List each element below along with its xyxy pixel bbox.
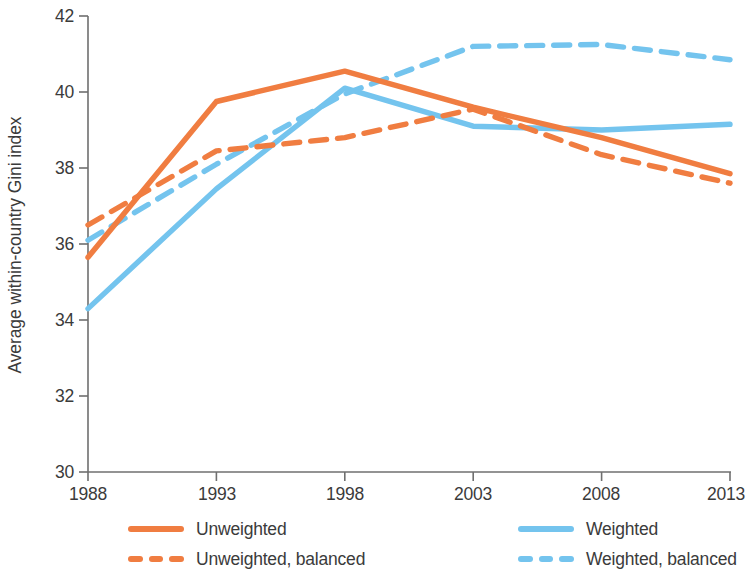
- chart-legend: Unweighted Weighted Unweighted, balanced…: [128, 514, 728, 574]
- legend-item-unweighted[interactable]: Unweighted: [128, 519, 518, 540]
- legend-label-unweighted: Unweighted: [196, 519, 286, 540]
- chart-container: Average within-country Gini index 42 40 …: [0, 0, 750, 576]
- plot-area: [0, 0, 750, 576]
- axis-lines: [88, 16, 731, 472]
- legend-label-unweighted-balanced: Unweighted, balanced: [196, 549, 365, 570]
- series-line-weighted: [88, 88, 730, 308]
- legend-item-weighted[interactable]: Weighted: [518, 519, 737, 540]
- legend-item-weighted-balanced[interactable]: Weighted, balanced: [518, 549, 737, 570]
- legend-swatch-weighted: [518, 526, 574, 532]
- x-axis-ticks: [88, 472, 730, 481]
- legend-item-unweighted-balanced[interactable]: Unweighted, balanced: [128, 549, 518, 570]
- legend-swatch-unweighted-balanced: [128, 556, 184, 562]
- legend-swatch-weighted-balanced: [518, 556, 574, 562]
- legend-label-weighted-balanced: Weighted, balanced: [586, 549, 737, 570]
- legend-label-weighted: Weighted: [586, 519, 658, 540]
- legend-swatch-unweighted: [128, 526, 184, 532]
- y-axis-ticks: [79, 16, 88, 472]
- data-series-group: [88, 45, 730, 309]
